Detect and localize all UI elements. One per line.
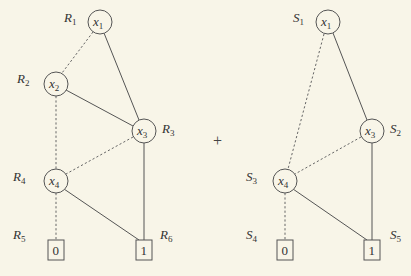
node-label: S4 bbox=[246, 227, 258, 244]
edge-r1-r3-high bbox=[104, 33, 139, 120]
node-label: S2 bbox=[390, 121, 401, 138]
node-r6: 1 R6 bbox=[136, 227, 173, 260]
terminal-value: 1 bbox=[141, 243, 148, 258]
node-label: R3 bbox=[161, 121, 175, 138]
node-label: R5 bbox=[12, 227, 26, 244]
node-s2: x3 S2 bbox=[360, 119, 401, 143]
node-r1: x1 R1 bbox=[63, 10, 112, 34]
node-s5: 1 S5 bbox=[364, 227, 402, 260]
right-bdd: x1 S1 x3 S2 x4 S3 0 S4 1 S5 bbox=[246, 10, 402, 260]
node-r4: x4 R4 bbox=[12, 169, 68, 193]
node-s1: x1 S1 bbox=[293, 10, 340, 34]
node-label: R2 bbox=[16, 71, 29, 88]
edge-r1-r2-low bbox=[62, 32, 93, 73]
node-label: R1 bbox=[63, 10, 76, 27]
node-r2: x2 R2 bbox=[16, 71, 68, 96]
terminal-value: 1 bbox=[369, 243, 376, 258]
edge-r4-r6-high bbox=[64, 189, 139, 240]
node-label: R6 bbox=[159, 227, 173, 244]
edge-s2-s3-low bbox=[295, 137, 361, 174]
terminal-value: 0 bbox=[53, 243, 60, 258]
node-r5: 0 R5 bbox=[12, 227, 64, 260]
bdd-addition-diagram: x1 R1 x2 R2 x3 R3 x4 R4 0 R5 bbox=[0, 0, 411, 276]
node-s4: 0 S4 bbox=[246, 227, 293, 260]
terminal-value: 0 bbox=[282, 243, 289, 258]
node-r3: x3 R3 bbox=[132, 119, 175, 143]
plus-operator: + bbox=[213, 132, 222, 149]
left-bdd: x1 R1 x2 R2 x3 R3 x4 R4 0 R5 bbox=[12, 10, 175, 260]
node-label: S3 bbox=[246, 169, 258, 186]
node-label: S5 bbox=[390, 227, 402, 244]
edge-r2-r3-high bbox=[66, 90, 133, 126]
edge-s1-s3-low bbox=[288, 34, 324, 169]
node-label: S1 bbox=[293, 10, 304, 27]
node-label: R4 bbox=[12, 169, 26, 186]
node-s3: x4 S3 bbox=[246, 169, 297, 193]
edge-s1-s2-high bbox=[333, 33, 367, 120]
edge-s3-s5-high bbox=[293, 189, 367, 240]
edge-r3-r4-low bbox=[66, 137, 133, 174]
